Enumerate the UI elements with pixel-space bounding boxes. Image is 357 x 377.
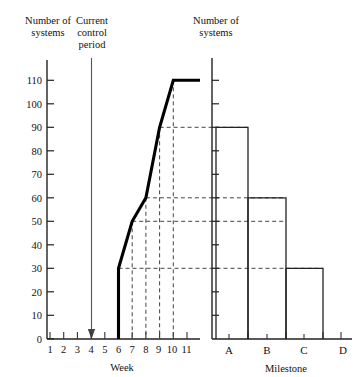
- milestone-label-c: C: [300, 344, 307, 356]
- left-y-label-30: 30: [32, 263, 43, 274]
- left-y-label-100: 100: [26, 99, 42, 110]
- left-x-axis-title: Week: [110, 362, 134, 373]
- left-x-label-9: 9: [156, 344, 161, 355]
- figure-container: Number of systems Current control period: [0, 0, 357, 377]
- left-x-label-2: 2: [61, 344, 66, 355]
- right-chart-axes: A B C D Milestone: [212, 58, 352, 374]
- milestone-bars: [216, 127, 323, 339]
- left-y-ticks: [47, 80, 54, 339]
- left-x-label-10: 10: [167, 344, 178, 355]
- left-y-label-60: 60: [32, 193, 43, 204]
- dual-chart-svg: Number of systems Current control period: [0, 0, 357, 377]
- left-y-label-0: 0: [37, 334, 42, 345]
- bar-milestone-a: [216, 127, 248, 339]
- bar-milestone-c: [286, 268, 323, 339]
- left-x-label-1: 1: [47, 344, 52, 355]
- left-y-label-10: 10: [32, 310, 43, 321]
- left-chart-axes: 0 10 20 30 40 50 60 70 80 90 100 110: [26, 60, 200, 373]
- left-panel-header: Number of systems: [25, 15, 71, 38]
- left-x-tick-labels: 1 2 3 4 5 6 7 8 9 10 11: [47, 344, 191, 355]
- milestone-label-a: A: [225, 344, 233, 356]
- right-x-ticks: [229, 332, 341, 339]
- left-y-label-110: 110: [27, 75, 42, 86]
- right-x-category-labels: A B C D: [225, 344, 347, 356]
- left-y-label-20: 20: [32, 287, 43, 298]
- left-x-label-6: 6: [116, 344, 121, 355]
- left-y-label-80: 80: [32, 146, 43, 157]
- left-x-label-4: 4: [88, 344, 94, 355]
- left-x-label-5: 5: [102, 344, 107, 355]
- milestone-label-b: B: [263, 344, 270, 356]
- left-y-label-40: 40: [32, 240, 43, 251]
- left-x-label-7: 7: [130, 344, 135, 355]
- current-control-period-annotation: Current control period: [76, 15, 108, 339]
- left-x-label-11: 11: [181, 344, 191, 355]
- annotation-line-3: period: [79, 39, 107, 50]
- left-header-line-1: Number of: [25, 15, 71, 26]
- annotation-line-1: Current: [76, 15, 108, 26]
- left-y-tick-labels: 0 10 20 30 40 50 60 70 80 90 100 110: [26, 75, 42, 345]
- left-y-label-70: 70: [32, 169, 43, 180]
- right-header-line-2: systems: [199, 27, 232, 38]
- annotation-line-2: control: [77, 27, 107, 38]
- reference-dashed-lines: [119, 80, 324, 339]
- left-x-label-3: 3: [75, 344, 80, 355]
- left-y-label-90: 90: [32, 122, 43, 133]
- milestone-label-d: D: [339, 344, 347, 356]
- right-panel-header: Number of systems: [193, 15, 239, 38]
- left-y-label-50: 50: [32, 216, 43, 227]
- left-header-line-2: systems: [31, 27, 64, 38]
- left-x-label-8: 8: [143, 344, 148, 355]
- right-x-axis-title: Milestone: [265, 363, 307, 374]
- cumulative-systems-curve: [119, 80, 201, 339]
- right-header-line-1: Number of: [193, 15, 239, 26]
